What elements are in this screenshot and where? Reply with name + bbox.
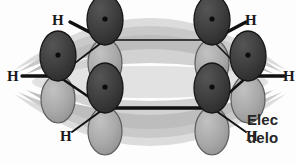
hydrogen-label-top-right: H [245, 12, 257, 29]
hydrogen-label-top-left: H [52, 12, 64, 29]
nucleus-dot-c4 [209, 84, 214, 89]
caption-line-1: Elec [247, 112, 278, 129]
p-orbital-c3 [230, 31, 266, 81]
nucleus-dot-c3 [245, 52, 250, 57]
lower-p-lobe-c4 [195, 107, 229, 155]
p-orbital-c1 [87, 0, 123, 45]
lower-p-lobe-c6 [41, 75, 75, 123]
nucleus-dot-c2 [209, 16, 214, 21]
lower-p-lobe-c5 [88, 107, 122, 155]
hydrogen-label-bottom-left: H [60, 128, 72, 145]
hydrogen-label-right: H [283, 68, 295, 85]
nucleus-dot-c1 [102, 16, 107, 21]
hydrogen-label-left: H [7, 68, 19, 85]
nucleus-dot-c5 [102, 84, 107, 89]
p-orbital-c6 [40, 31, 76, 81]
p-orbital-c4 [194, 63, 230, 113]
nucleus-dot-c6 [55, 52, 60, 57]
caption-line-2: delo [247, 130, 278, 147]
benzene-orbital-figure: H H H H H H Elec delo [0, 0, 296, 164]
p-orbital-c5 [87, 63, 123, 113]
p-orbital-c2 [194, 0, 230, 45]
